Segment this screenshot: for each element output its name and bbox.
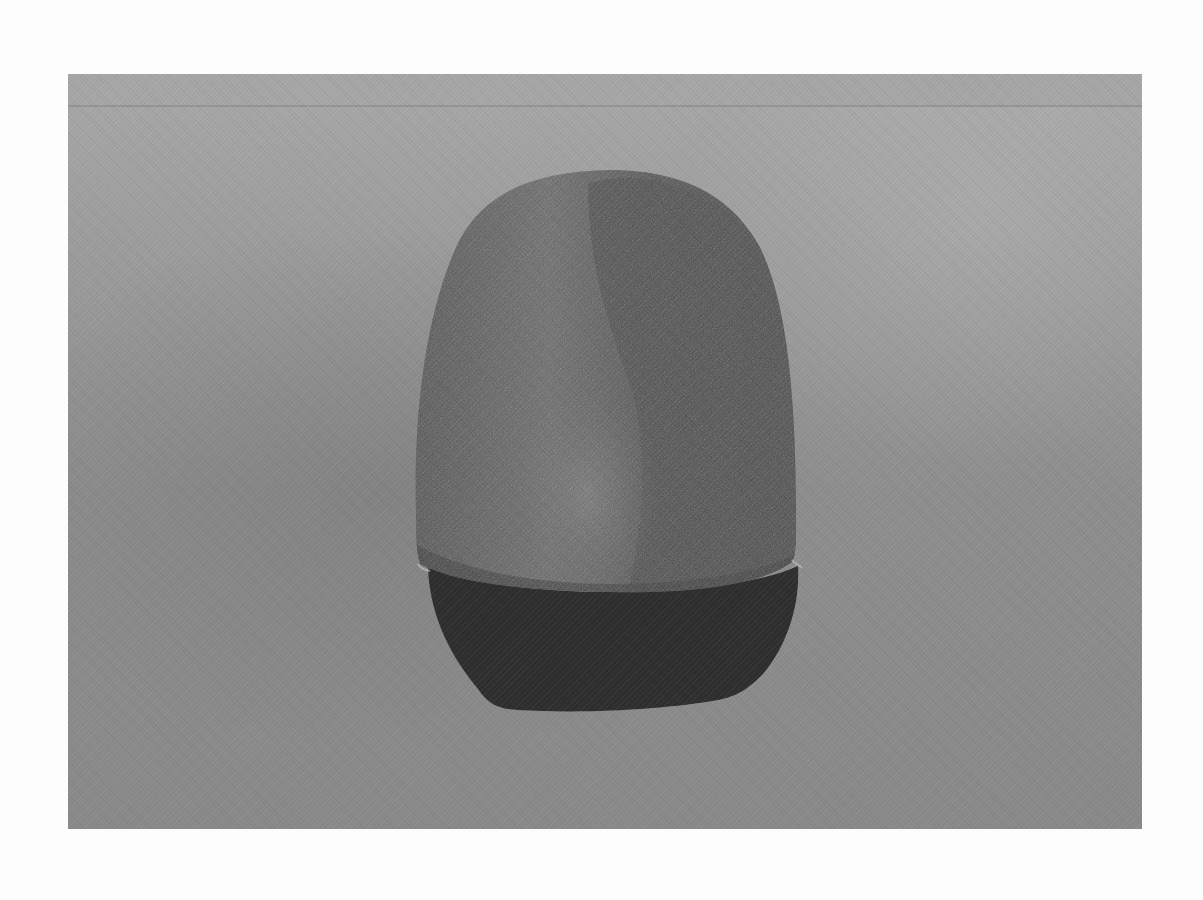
photograph — [68, 74, 1142, 829]
stone-artifact — [68, 74, 1142, 829]
page — [0, 0, 1203, 900]
